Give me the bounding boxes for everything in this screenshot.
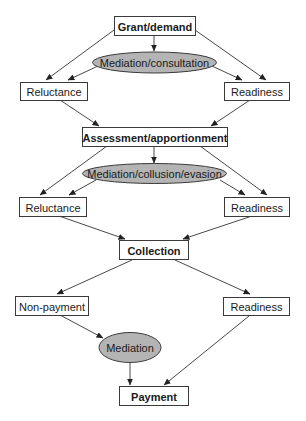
node-label: Payment	[131, 391, 177, 403]
node-assessment-apportionment: Assessment/apportionment	[83, 128, 228, 147]
node-label: Mediation/consultation	[100, 57, 209, 69]
arrow-non-payment-to-mediation	[60, 315, 103, 338]
node-label: Grant/demand	[118, 21, 193, 33]
node-mediation-collusion-evasion: Mediation/collusion/evasion	[83, 164, 227, 184]
node-label: Non-payment	[19, 301, 85, 313]
node-reluctance-2: Reluctance	[20, 198, 87, 217]
node-readiness-3: Readiness	[224, 298, 290, 316]
node-readiness-2: Readiness	[225, 198, 290, 217]
node-label: Mediation/collusion/evasion	[87, 168, 222, 180]
node-label: Collection	[127, 245, 180, 257]
node-reluctance-1: Reluctance	[21, 83, 88, 101]
node-label: Readiness	[231, 301, 283, 313]
node-label: Readiness	[231, 202, 283, 214]
arrow-readiness-3-to-payment	[164, 316, 249, 385]
node-mediation: Mediation	[99, 333, 161, 363]
arrow-mediation-consultation-to-readiness-1	[212, 66, 242, 80]
node-readiness-1: Readiness	[225, 83, 290, 101]
node-label: Assessment/apportionment	[83, 132, 228, 144]
node-mediation-consultation: Mediation/consultation	[93, 52, 217, 73]
node-grant-demand: Grant/demand	[115, 17, 196, 36]
arrow-mediation-collusion-to-reluctance-2	[69, 180, 96, 195]
node-label: Reluctance	[25, 202, 80, 214]
arrow-mediation-consultation-to-reluctance-1	[68, 66, 98, 80]
flow-diagram: Grant/demand Mediation/consultation Relu…	[0, 0, 306, 421]
node-collection: Collection	[120, 241, 189, 260]
node-label: Reluctance	[26, 86, 81, 98]
arrow-reluctance-1-to-assessment	[60, 100, 99, 126]
arrow-reluctance-2-to-collection	[59, 216, 125, 239]
arrow-grant-to-readiness-1	[195, 30, 266, 80]
node-label: Mediation	[106, 342, 154, 354]
node-payment: Payment	[120, 387, 189, 406]
node-non-payment: Non-payment	[16, 297, 89, 316]
node-label: Readiness	[231, 86, 283, 98]
arrow-readiness-1-to-assessment	[211, 100, 250, 126]
arrow-collection-to-non-payment	[57, 260, 132, 294]
arrow-grant-to-reluctance-1	[46, 30, 114, 80]
arrow-readiness-2-to-collection	[183, 216, 252, 239]
arrow-mediation-collusion-to-readiness-2	[220, 180, 245, 195]
arrow-collection-to-readiness-3	[175, 260, 250, 294]
